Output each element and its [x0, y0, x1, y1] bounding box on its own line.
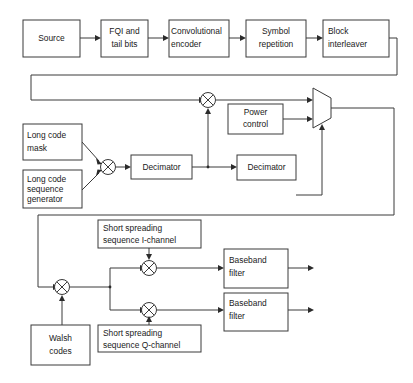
- decimator-chain-wires: [192, 164, 237, 170]
- block-symbol-repetition[interactable]: Symbol repetition: [246, 20, 306, 57]
- arrowhead-fqi-in: [95, 35, 101, 41]
- arrowhead-mux-select-in: [319, 124, 325, 130]
- long-code-generator-label-line1: Long code: [27, 174, 66, 184]
- baseband-filter-q-label-line2: filter: [229, 311, 245, 321]
- block-interleaver-label-line1: Block: [328, 26, 349, 36]
- mux-select-wires: [296, 124, 325, 195]
- long-code-mask-label-line2: mask: [27, 143, 48, 153]
- arrowhead-output-i: [308, 265, 314, 271]
- arrowhead-walsh-bottom-in: [59, 295, 65, 301]
- arrowhead-encoder-in: [163, 35, 169, 41]
- multiplexer: [313, 88, 331, 128]
- block-fqi-tail-bits[interactable]: FQI and tail bits: [101, 20, 148, 57]
- arrowhead-mux-input-top: [307, 97, 313, 103]
- arrowhead-i-sum-top-in: [146, 254, 152, 260]
- arrowhead-repetition-in: [240, 35, 246, 41]
- mux-trapezoid: [313, 88, 331, 128]
- arrowhead-sum-generator-in: [96, 170, 102, 177]
- block-baseband-filter-i[interactable]: Baseband filter: [224, 249, 288, 288]
- lower-stage-feed-path: [38, 108, 394, 290]
- sum-i-channel: [142, 261, 157, 276]
- decimator-1-label: Decimator: [142, 162, 180, 172]
- block-long-code-sequence-generator[interactable]: Long code sequence generator: [23, 170, 82, 208]
- block-diagram-svg: Source FQI and tail bits Convolutional e…: [0, 0, 413, 383]
- baseband-filter-i-label-line2: filter: [229, 268, 245, 278]
- block-block-interleaver[interactable]: Block interleaver: [323, 20, 389, 57]
- wire-mask-to-sum: [82, 142, 99, 161]
- short-spreading-q-label-line2: sequence Q-channel: [103, 340, 180, 350]
- short-spreading-i-label-line2: sequence I-channel: [103, 235, 176, 245]
- block-power-control[interactable]: Power control: [228, 104, 283, 134]
- arrowhead-interleaver-in: [317, 35, 323, 41]
- block-decimator-2[interactable]: Decimator: [237, 155, 296, 180]
- arrowhead-sum-mask-in: [96, 158, 102, 165]
- sum-q-channel: [142, 303, 157, 318]
- long-code-generator-label-line3: generator: [27, 194, 63, 204]
- walsh-input-wire: [59, 295, 65, 325]
- arrowhead-baseband-q-in: [218, 307, 224, 313]
- block-walsh-codes[interactable]: Walsh codes: [31, 325, 90, 365]
- junction-dot-decimator1-branch: [207, 166, 210, 169]
- arrowhead-output-q: [308, 307, 314, 313]
- block-decimator-1[interactable]: Decimator: [131, 155, 192, 179]
- conv-encoder-label-line1: Convolutional: [171, 26, 222, 36]
- source-label: Source: [38, 33, 65, 43]
- junction-dot-iq-split: [109, 286, 112, 289]
- arrowhead-decimator2-in: [231, 164, 237, 170]
- short-spreading-q-label-line1: Short spreading: [103, 328, 162, 338]
- walsh-codes-box[interactable]: [31, 325, 90, 365]
- baseband-output-wires: [288, 265, 314, 313]
- long-code-mask-label-line1: Long code: [27, 130, 66, 140]
- block-short-spreading-i[interactable]: Short spreading sequence I-channel: [98, 220, 201, 248]
- baseband-filter-i-label-line1: Baseband: [229, 255, 267, 265]
- walsh-codes-label-line1: Walsh: [49, 333, 72, 343]
- sum-long-code: [101, 160, 116, 175]
- i-channel-spread-wire: [146, 248, 152, 260]
- arrowhead-baseband-i-in: [218, 265, 224, 271]
- decimator-2-label: Decimator: [247, 162, 285, 172]
- short-spreading-i-label-line1: Short spreading: [103, 223, 162, 233]
- longcode-to-sum-wires: [205, 108, 211, 167]
- iq-split-wires: [70, 265, 146, 313]
- arrowhead-sum-bottom-in: [205, 108, 211, 114]
- long-code-generator-label-line2: sequence: [27, 184, 64, 194]
- block-short-spreading-q[interactable]: Short spreading sequence Q-channel: [98, 325, 201, 352]
- block-interleaver-label-line2: interleaver: [328, 39, 367, 49]
- baseband-filter-q-label-line1: Baseband: [229, 298, 267, 308]
- fqi-label-line2: tail bits: [111, 39, 137, 49]
- arrowhead-mux-input-mid: [307, 116, 313, 122]
- wire-mux-out-to-walsh-sum: [38, 108, 394, 287]
- symbol-repetition-label-line2: repetition: [259, 39, 294, 49]
- power-control-label-line2: control: [243, 119, 268, 129]
- walsh-codes-label-line2: codes: [49, 346, 71, 356]
- sum-interleaver-longcode: [201, 93, 216, 108]
- baseband-input-wires: [157, 265, 224, 313]
- block-long-code-mask[interactable]: Long code mask: [23, 124, 82, 160]
- power-control-label-line1: Power: [244, 107, 268, 117]
- block-source[interactable]: Source: [23, 20, 80, 57]
- block-convolutional-encoder[interactable]: Convolutional encoder: [169, 20, 229, 57]
- symbol-repetition-label-line1: Symbol: [262, 26, 290, 36]
- arrowhead-decimator1-in: [125, 164, 131, 170]
- sum-walsh: [55, 280, 70, 295]
- fqi-label-line1: FQI and: [109, 26, 140, 36]
- conv-encoder-label-line2: encoder: [171, 39, 201, 49]
- block-diagram-canvas: Source FQI and tail bits Convolutional e…: [0, 0, 413, 383]
- block-baseband-filter-q[interactable]: Baseband filter: [224, 293, 288, 331]
